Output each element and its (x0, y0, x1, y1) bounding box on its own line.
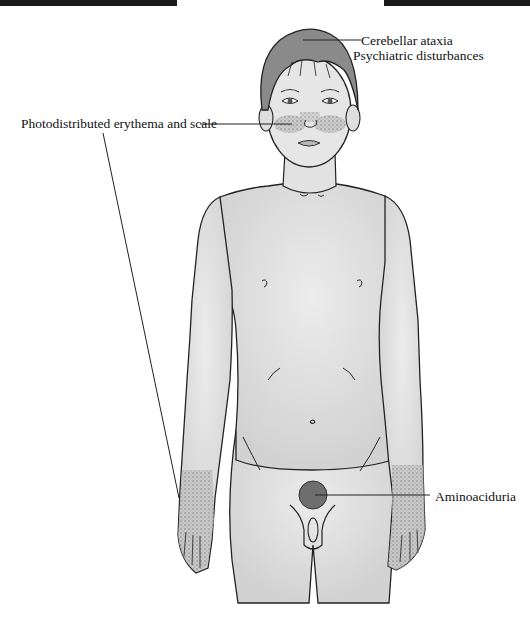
leader-photodistributed-arm (103, 133, 179, 498)
body-illustration (0, 0, 530, 621)
torso (220, 183, 404, 470)
right-forearm-rash (388, 465, 425, 570)
nose-bridge-rash (300, 112, 320, 122)
label-photodistributed-erythema: Photodistributed erythema and scale (21, 116, 217, 131)
label-aminoaciduria: Aminoaciduria (435, 489, 516, 504)
label-cerebellar-ataxia: Cerebellar ataxia (361, 33, 453, 48)
label-psychiatric-disturbances: Psychiatric disturbances (353, 48, 484, 63)
